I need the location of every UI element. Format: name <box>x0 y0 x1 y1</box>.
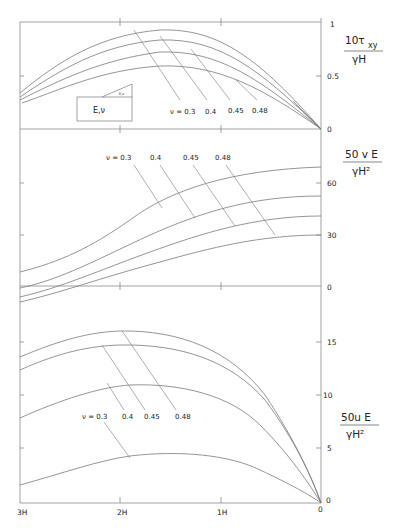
ytick-mid-60: 60 <box>327 179 337 188</box>
label-nu-0.48: 0.48 <box>252 107 268 115</box>
ytick-bot-10: 10 <box>323 391 333 400</box>
label-nu-0.3: ν = 0.3 <box>106 154 131 162</box>
ylabel-top-numerator: 10τ <box>345 34 365 46</box>
middle-curves <box>20 167 321 302</box>
curve-nu-0.3 <box>20 454 321 503</box>
ytick-bot-15: 15 <box>327 338 337 347</box>
ytick-mid-0: 0 <box>327 283 332 292</box>
axes-frame <box>20 18 321 503</box>
curve-nu-0.48 <box>22 66 321 129</box>
ytick-bot-5: 5 <box>327 444 332 453</box>
curve-nu-0.45 <box>20 52 321 129</box>
ylabel-bot-numerator: 50u E <box>341 411 371 423</box>
ytick-mid-30: 30 <box>327 231 337 240</box>
ylabel-top-subscript: xy <box>368 41 378 50</box>
panel-middle: ν = 0.3 0.4 0.45 0.48 60 30 0 50 v E γH² <box>20 148 382 302</box>
ylabel-middle: 50 v E γH² <box>343 148 382 177</box>
inset-slope <box>102 84 132 97</box>
inset-sketch <box>77 84 132 121</box>
xtick-0: 0 <box>318 505 323 514</box>
ylabel-top: 10τ xy γH <box>344 34 383 65</box>
xtick-2H: 2H <box>117 508 127 517</box>
label-nu-0.45: 0.45 <box>183 154 199 162</box>
curve-nu-0.45 <box>20 345 321 503</box>
ylabel-mid-denominator: γH² <box>352 165 370 177</box>
figure: ν = 0.3 0.4 0.45 0.48 E,ν E,ν 1 0.5 0 10… <box>0 0 394 530</box>
ylabel-bot-denominator: γH² <box>346 428 364 440</box>
label-nu-0.3: ν = 0.3 <box>170 108 195 116</box>
inset-block-label: E,ν <box>93 106 106 115</box>
label-nu-0.4: 0.4 <box>150 154 162 162</box>
curve-nu-0.4 <box>20 385 321 503</box>
bottom-leader-lines <box>102 331 176 458</box>
label-nu-0.45: 0.45 <box>144 413 160 421</box>
top-annotations: ν = 0.3 0.4 0.45 0.48 <box>170 107 268 116</box>
label-nu-0.45: 0.45 <box>228 107 244 115</box>
ytick-top-0.5: 0.5 <box>327 72 339 81</box>
label-nu-0.48: 0.48 <box>175 413 191 421</box>
ytick-bot-0: 0 <box>326 496 331 505</box>
bottom-curves <box>20 331 321 503</box>
bottom-annotations: ν = 0.3 0.4 0.45 0.48 <box>82 413 191 421</box>
label-nu-0.4: 0.4 <box>205 108 217 116</box>
ytick-top-0: 0 <box>327 125 332 134</box>
curve-nu-0.45 <box>20 216 321 297</box>
middle-annotations: ν = 0.3 0.4 0.45 0.48 <box>106 154 231 162</box>
label-nu-0.3: ν = 0.3 <box>82 413 107 421</box>
curve-nu-0.4 <box>20 196 321 288</box>
inset-slope-label: E,ν <box>119 92 124 96</box>
panel-bottom: ν = 0.3 0.4 0.45 0.48 15 10 5 0 50u E γH… <box>17 331 379 517</box>
ylabel-top-denominator: γH <box>352 53 366 65</box>
ytick-top-1: 1 <box>330 20 335 29</box>
xtick-1H: 1H <box>217 508 227 517</box>
xtick-3H: 3H <box>17 508 27 517</box>
ylabel-mid-numerator: 50 v E <box>345 148 378 160</box>
label-nu-0.4: 0.4 <box>122 413 134 421</box>
chart-canvas: ν = 0.3 0.4 0.45 0.48 E,ν E,ν 1 0.5 0 10… <box>0 0 394 530</box>
ylabel-bottom: 50u E γH² <box>340 411 379 440</box>
label-nu-0.48: 0.48 <box>215 154 231 162</box>
curve-nu-0.3 <box>20 167 321 272</box>
middle-leader-lines <box>134 165 275 235</box>
panel-top: ν = 0.3 0.4 0.45 0.48 E,ν E,ν 1 0.5 0 10… <box>20 20 383 134</box>
